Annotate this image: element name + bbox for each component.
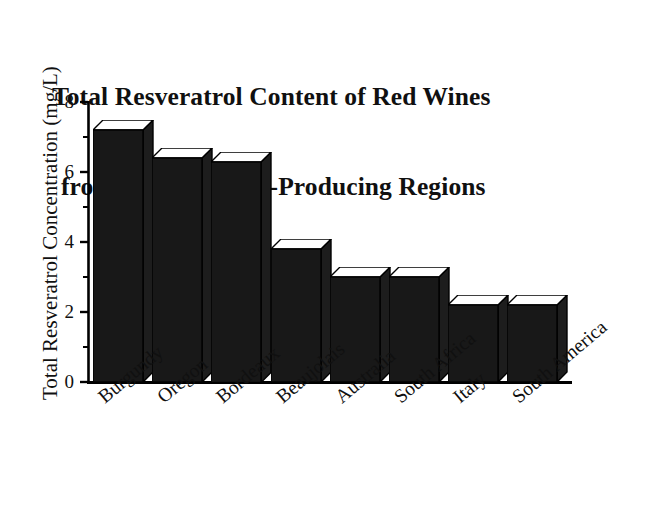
y-tick-label-8: 8 [48, 92, 74, 111]
y-tick-label-6: 6 [48, 162, 74, 181]
y-tick-label-0: 0 [48, 372, 74, 391]
bar-oregon [152, 148, 212, 382]
y-tick-label-4: 4 [48, 232, 74, 251]
bar-3d-geometry [93, 120, 155, 384]
y-axis-major-ticks [80, 102, 88, 382]
bar-burgundy [93, 120, 153, 382]
bar-3d-geometry [152, 148, 214, 384]
y-tick-label-2: 2 [48, 302, 74, 321]
chart-figure: Total Resveratrol Content of Red Wines f… [0, 0, 659, 524]
plot-area: 8 6 4 2 0 BurgundyOregonBordeauxBeaujola… [0, 0, 659, 524]
